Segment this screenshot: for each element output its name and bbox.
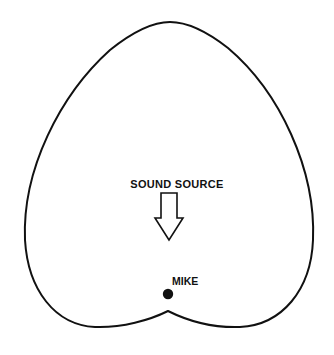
sound-source-label: SOUND SOURCE <box>130 178 223 190</box>
microphone-dot-icon <box>163 289 173 299</box>
sound-direction-arrow-icon <box>155 193 183 240</box>
mike-label: MIKE <box>172 275 198 287</box>
cardioid-pattern-diagram: SOUND SOURCE MIKE <box>0 0 334 355</box>
polar-pattern-outline <box>25 22 313 327</box>
